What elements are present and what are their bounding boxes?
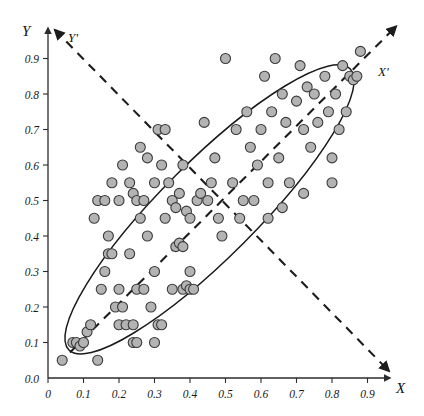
- x-tick-label: 0.7: [289, 388, 305, 400]
- data-point: [313, 117, 323, 127]
- data-point: [217, 231, 227, 241]
- data-point: [178, 160, 188, 170]
- data-point: [338, 61, 348, 71]
- data-point: [128, 320, 138, 330]
- data-point: [309, 89, 319, 99]
- data-point: [178, 242, 188, 252]
- x-tick-label: 0.3: [147, 388, 162, 400]
- y-tick-label: 0.4: [25, 231, 40, 243]
- data-point: [125, 178, 135, 188]
- data-point: [150, 338, 160, 348]
- data-point: [295, 61, 305, 71]
- data-point: [252, 160, 262, 170]
- data-point: [142, 231, 152, 241]
- data-point: [355, 46, 365, 56]
- data-point: [118, 160, 128, 170]
- x-tick-label: 0.6: [254, 388, 269, 400]
- y-tick-label: 0.0: [25, 373, 40, 385]
- data-point: [150, 267, 160, 277]
- data-point: [139, 196, 149, 206]
- data-point: [331, 89, 341, 99]
- data-point: [231, 125, 241, 135]
- data-point: [299, 125, 309, 135]
- y-tick-label: 0.7: [25, 124, 41, 136]
- data-point: [327, 178, 337, 188]
- data-point: [160, 125, 170, 135]
- scatter-plot-figure: 00.10.20.30.40.50.60.70.80.90.00.10.20.3…: [0, 0, 424, 416]
- data-point: [270, 54, 280, 64]
- data-point: [157, 320, 167, 330]
- data-point: [135, 213, 145, 223]
- data-point: [352, 71, 362, 81]
- data-point: [334, 125, 344, 135]
- pc2-axis-label: Y': [68, 30, 78, 45]
- data-point: [100, 196, 110, 206]
- data-point: [320, 71, 330, 81]
- data-point: [139, 284, 149, 294]
- data-point: [93, 355, 103, 365]
- x-tick-label: 0.1: [76, 388, 90, 400]
- data-point: [199, 117, 209, 127]
- data-point: [274, 153, 284, 163]
- data-point: [323, 107, 333, 117]
- data-point: [327, 153, 337, 163]
- x-axis-label: X: [395, 380, 406, 396]
- data-point: [57, 355, 67, 365]
- data-point: [185, 213, 195, 223]
- data-point: [89, 213, 99, 223]
- y-tick-label: 0.3: [25, 266, 40, 278]
- x-tick-label: 0.4: [183, 388, 198, 400]
- y-tick-label: 0.9: [25, 53, 40, 65]
- data-point: [107, 178, 117, 188]
- data-point: [267, 107, 277, 117]
- data-point: [235, 213, 245, 223]
- data-point: [281, 117, 291, 127]
- data-point: [79, 338, 89, 348]
- data-point: [150, 178, 160, 188]
- data-point: [299, 188, 309, 198]
- data-point: [277, 203, 287, 213]
- data-point: [242, 107, 252, 117]
- data-point: [103, 231, 113, 241]
- data-point: [160, 213, 170, 223]
- data-point: [206, 178, 216, 188]
- data-point: [238, 196, 248, 206]
- data-point: [260, 71, 270, 81]
- data-point: [118, 302, 128, 312]
- x-tick-label: 0.2: [112, 388, 127, 400]
- data-point: [189, 284, 199, 294]
- data-point: [142, 153, 152, 163]
- data-point: [284, 178, 294, 188]
- data-point: [146, 302, 156, 312]
- x-tick-label: 0: [45, 388, 51, 400]
- y-tick-label: 0.1: [25, 337, 39, 349]
- data-point: [292, 96, 302, 106]
- data-point: [135, 142, 145, 152]
- y-tick-label: 0.6: [25, 160, 40, 172]
- data-point: [114, 196, 124, 206]
- y-tick-label: 0.5: [25, 195, 40, 207]
- data-point: [164, 178, 174, 188]
- y-tick-label: 0.8: [25, 89, 40, 101]
- y-tick-label: 0.2: [25, 302, 40, 314]
- data-point: [125, 249, 135, 259]
- data-point: [245, 142, 255, 152]
- data-point: [263, 213, 273, 223]
- data-point: [114, 284, 124, 294]
- data-point: [185, 267, 195, 277]
- data-point: [100, 267, 110, 277]
- data-point: [86, 320, 96, 330]
- data-point: [107, 249, 117, 259]
- data-point: [249, 196, 259, 206]
- data-point: [213, 213, 223, 223]
- data-point: [132, 338, 142, 348]
- data-point: [277, 89, 287, 99]
- x-tick-label: 0.8: [325, 388, 340, 400]
- data-point: [228, 178, 238, 188]
- x-tick-label: 0.5: [218, 388, 233, 400]
- y-axis-label: Y: [22, 23, 32, 39]
- data-point: [157, 160, 167, 170]
- data-point: [171, 203, 181, 213]
- data-point: [96, 284, 106, 294]
- scatter-points-group: [57, 46, 365, 365]
